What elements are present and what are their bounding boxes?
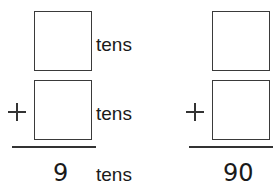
addend2-answer-box[interactable] [212,80,270,140]
plus-icon [186,103,204,121]
addend2-unit-label: tens [96,104,132,123]
sum-rule [12,146,96,148]
addend1-unit-label: tens [96,35,132,54]
sum-rule [189,146,273,148]
addend2-answer-box[interactable] [34,80,92,140]
sum-value: 90 [223,161,254,185]
sum-unit-label: tens [96,165,132,184]
sum-value: 9 [53,161,68,185]
plus-icon [8,103,26,121]
addend1-answer-box[interactable] [212,11,270,71]
addend1-answer-box[interactable] [34,11,92,71]
